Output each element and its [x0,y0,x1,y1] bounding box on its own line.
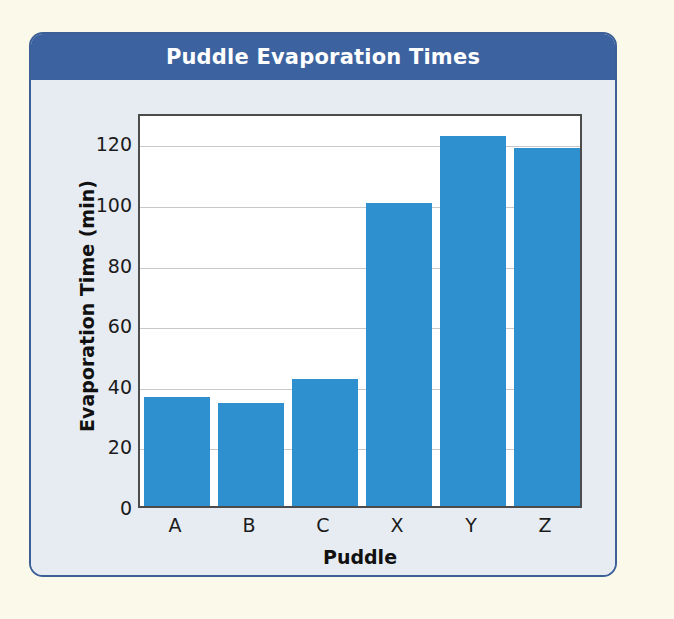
x-axis-tick-labels: ABCXYZ [138,514,582,540]
bar-Y [440,136,506,506]
chart-card-body: Evaporation Time (min) 020406080100120 A… [31,80,615,575]
bar-X [366,203,432,506]
y-axis-tick-label: 120 [96,133,132,155]
x-axis-tick-label: Y [465,514,477,536]
x-axis-tick-label: C [316,514,329,536]
plot-area [138,114,582,508]
y-axis-tick-label: 100 [96,194,132,216]
bar-series [140,116,580,506]
chart-title: Puddle Evaporation Times [166,45,480,69]
y-axis-tick-label: 20 [108,436,132,458]
bar-B [218,403,284,506]
bar-A [144,397,210,506]
x-axis-title: Puddle [138,546,582,568]
chart-card: Puddle Evaporation Times Evaporation Tim… [29,32,617,577]
bar-Z [514,148,580,506]
x-axis-tick-label: Z [538,514,551,536]
screenshot-root: Puddle Evaporation Times Evaporation Tim… [0,0,674,619]
y-axis-tick-label: 80 [108,255,132,277]
y-axis-tick-label: 60 [108,315,132,337]
bar-C [292,379,358,506]
y-axis-tick-labels: 020406080100120 [71,114,132,508]
y-axis-tick-label: 0 [120,497,132,519]
x-axis-tick-label: A [169,514,182,536]
x-axis-tick-label: X [390,514,403,536]
x-axis-tick-label: B [242,514,255,536]
y-axis-tick-label: 40 [108,376,132,398]
chart-card-header: Puddle Evaporation Times [31,34,615,80]
